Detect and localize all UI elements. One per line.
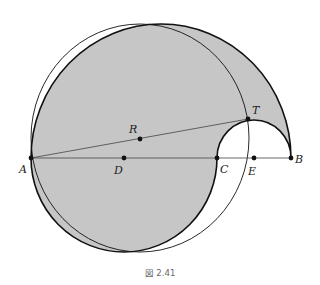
label-d: D bbox=[113, 164, 123, 177]
label-b: B bbox=[294, 153, 303, 166]
shaded-arbelos-region bbox=[31, 24, 291, 252]
point-d bbox=[122, 156, 127, 161]
label-a: A bbox=[18, 163, 27, 176]
label-e: E bbox=[247, 165, 256, 178]
point-c bbox=[215, 156, 220, 161]
point-e bbox=[252, 156, 257, 161]
point-t bbox=[246, 117, 251, 122]
label-r: R bbox=[128, 123, 137, 136]
label-c: C bbox=[220, 163, 229, 176]
point-a bbox=[29, 156, 34, 161]
point-r bbox=[138, 137, 143, 142]
figure-caption: 図 2.41 bbox=[0, 266, 320, 278]
arbelos-figure: A D C E B T R bbox=[0, 0, 320, 285]
point-b bbox=[289, 156, 294, 161]
